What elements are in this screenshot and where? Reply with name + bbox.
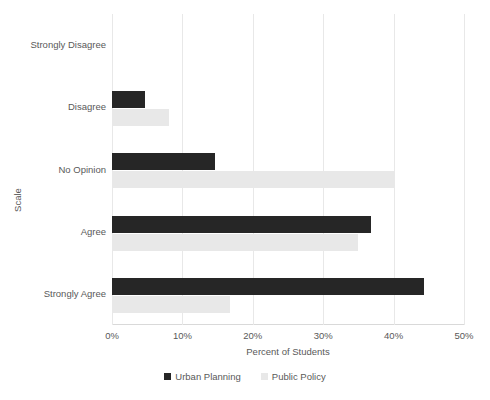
category-row xyxy=(112,263,464,325)
category-row xyxy=(112,14,464,76)
bar-urban-planning xyxy=(112,216,371,233)
x-axis-tick-50: 50% xyxy=(454,330,473,341)
bar-chart: Scale Strongly DisagreeDisagreeNo Opinio… xyxy=(0,0,490,400)
bar-public-policy xyxy=(112,109,169,126)
chart-legend: Urban PlanningPublic Policy xyxy=(0,371,490,382)
x-axis-title: Percent of Students xyxy=(112,346,464,357)
x-axis-tick-30: 30% xyxy=(314,330,333,341)
grid-line-50 xyxy=(464,14,465,325)
legend-item-urban-planning[interactable]: Urban Planning xyxy=(164,371,241,382)
bar-urban-planning xyxy=(112,153,215,170)
bar-public-policy xyxy=(112,171,394,188)
legend-label: Urban Planning xyxy=(175,371,241,382)
legend-swatch-icon xyxy=(261,373,268,380)
y-axis-label-no-opinion: No Opinion xyxy=(0,164,106,176)
x-axis-tick-20: 20% xyxy=(243,330,262,341)
bar-public-policy xyxy=(112,296,230,313)
category-row xyxy=(112,138,464,200)
y-axis-category-labels: Strongly DisagreeDisagreeNo OpinionAgree… xyxy=(0,14,106,325)
y-axis-label-strongly-agree: Strongly Agree xyxy=(0,288,106,300)
y-axis-label-agree: Agree xyxy=(0,226,106,238)
x-axis-tick-10: 10% xyxy=(173,330,192,341)
y-axis-label-disagree: Disagree xyxy=(0,101,106,113)
legend-item-public-policy[interactable]: Public Policy xyxy=(261,371,326,382)
category-row xyxy=(112,76,464,138)
legend-label: Public Policy xyxy=(272,371,326,382)
bar-public-policy xyxy=(112,234,358,251)
y-axis-label-strongly-disagree: Strongly Disagree xyxy=(0,39,106,51)
x-axis-tick-40: 40% xyxy=(384,330,403,341)
x-axis-tick-0: 0% xyxy=(105,330,119,341)
legend-swatch-icon xyxy=(164,373,171,380)
bar-urban-planning xyxy=(112,278,424,295)
category-row xyxy=(112,201,464,263)
plot-area xyxy=(112,14,464,325)
bar-urban-planning xyxy=(112,91,145,108)
